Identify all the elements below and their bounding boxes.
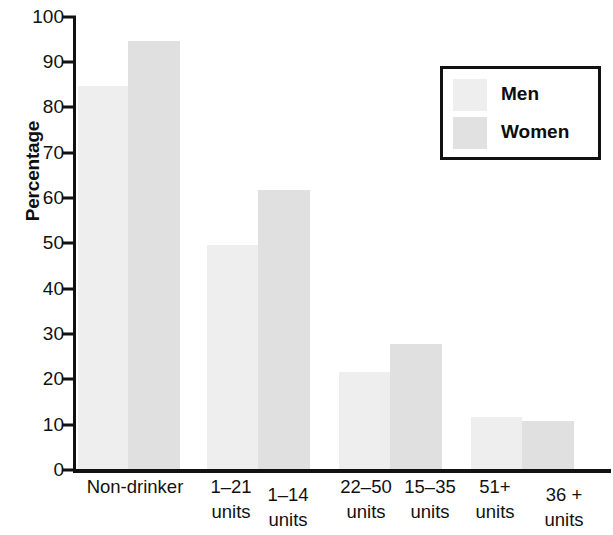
legend-label-men: Men [501, 83, 539, 105]
x-label-22-50-units: 22–50 units [330, 474, 402, 524]
y-tick-mark-10 [62, 424, 76, 427]
x-axis-line [73, 469, 611, 473]
y-tick-label-90: 90 [20, 51, 64, 73]
legend-swatch-women-icon [453, 117, 487, 149]
bar-men-1-21-units [207, 245, 258, 469]
y-tick-mark-50 [62, 242, 76, 245]
y-tick-mark-30 [62, 333, 76, 336]
bar-women-non-drinker [128, 41, 180, 469]
y-tick-mark-40 [62, 288, 76, 291]
bar-men-non-drinker [78, 86, 128, 469]
y-tick-mark-70 [62, 152, 76, 155]
y-tick-label-70: 70 [20, 142, 64, 164]
y-tick-mark-100 [62, 16, 76, 19]
bar-men-22-50-units [339, 372, 390, 469]
x-label-non-drinker: Non-drinker [60, 474, 210, 499]
y-axis-tick-labels: 0 10 20 30 40 50 60 70 80 90 100 [20, 0, 64, 535]
legend-swatch-men-icon [453, 79, 487, 111]
legend: Men Women [440, 66, 601, 160]
x-label-51-plus-units: 51+ units [464, 474, 526, 524]
x-label-1-21-units: 1–21 units [200, 474, 262, 524]
y-tick-label-50: 50 [20, 232, 64, 254]
y-tick-mark-90 [62, 61, 76, 64]
y-tick-label-30: 30 [20, 323, 64, 345]
x-label-1-14-units: 1–14 units [256, 482, 320, 532]
bar-women-15-35-units [390, 344, 442, 469]
y-tick-mark-80 [62, 106, 76, 109]
x-label-36-plus-units: 36 + units [528, 482, 600, 532]
y-tick-mark-0 [62, 469, 76, 472]
y-tick-label-10: 10 [20, 414, 64, 436]
y-tick-mark-20 [62, 378, 76, 381]
y-tick-label-80: 80 [20, 96, 64, 118]
y-tick-label-100: 100 [20, 6, 64, 28]
bar-chart: Percentage 0 10 20 30 40 50 60 70 80 90 … [0, 0, 613, 535]
bar-women-1-14-units [258, 190, 310, 469]
x-label-15-35-units: 15–35 units [394, 474, 466, 524]
bar-men-51-plus-units [471, 417, 522, 469]
bar-women-36-plus-units [522, 421, 574, 469]
legend-label-women: Women [501, 121, 569, 143]
y-tick-label-60: 60 [20, 187, 64, 209]
y-tick-label-20: 20 [20, 368, 64, 390]
x-axis-tick-labels: Non-drinker 1–21 units 1–14 units 22–50 … [0, 474, 613, 535]
y-tick-label-40: 40 [20, 278, 64, 300]
y-tick-mark-60 [62, 197, 76, 200]
